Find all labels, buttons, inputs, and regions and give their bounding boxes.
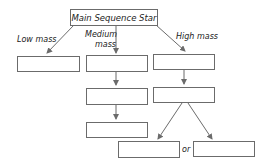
high-mass-outcome-right[interactable] [193,141,255,157]
root-label: Main Sequence Star [71,13,156,23]
label-medium-mass-line2: mass [95,40,116,50]
label-medium-mass-line1: Medium [85,30,117,40]
high-mass-box-1[interactable] [153,54,215,70]
medium-mass-box-2[interactable] [86,88,148,105]
arrow-high-to-left [158,103,182,139]
arrow-high-to-right [188,103,212,139]
label-low-mass: Low mass [17,35,56,45]
high-mass-box-2[interactable] [153,87,215,103]
root-box-main-sequence-star: Main Sequence Star [70,9,158,26]
medium-mass-box-1[interactable] [86,55,148,72]
low-mass-box-1[interactable] [17,56,80,72]
label-high-mass: High mass [176,32,218,42]
or-connector: or [182,145,190,155]
high-mass-outcome-left[interactable] [118,141,180,158]
medium-mass-box-3[interactable] [86,122,148,138]
